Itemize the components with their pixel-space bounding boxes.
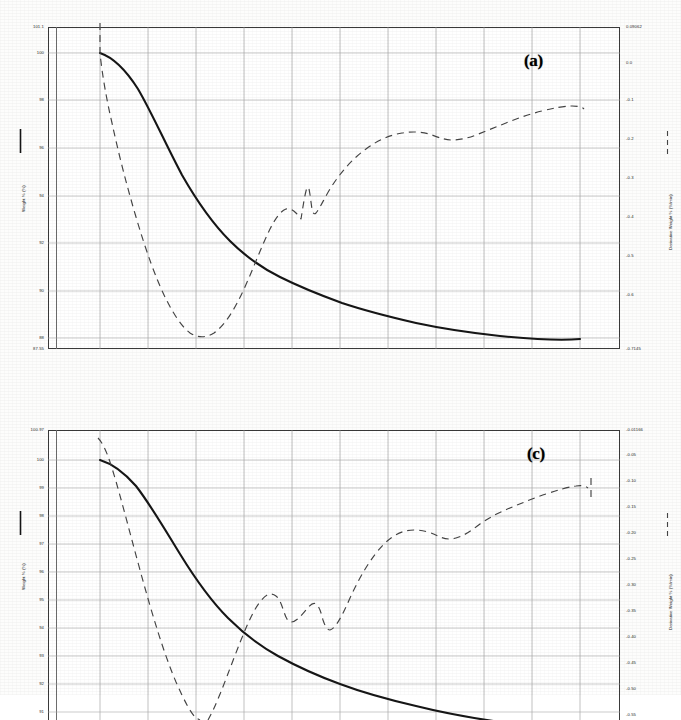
axis-tick-label: 0.0 — [626, 61, 632, 65]
axis-tick-label: -0.35 — [626, 609, 636, 613]
axis-tick-label: -0.45 — [626, 661, 636, 665]
plot-a-curves — [48, 27, 620, 349]
axis-tick-label: -0.4 — [626, 215, 634, 219]
axis-tick-label: -0.1 — [626, 98, 634, 102]
chart-panel-c: 100.97 100 99 98 97 96 95 94 93 92 91 -0… — [0, 400, 681, 695]
derivative-curve-c — [98, 438, 591, 720]
left-axis-legend-solid — [17, 128, 24, 154]
axis-tick-label: -0.55 — [626, 713, 636, 717]
axis-tick-label: 100.97 — [2, 428, 44, 432]
axis-tick-label: 100 — [6, 458, 44, 462]
axis-tick-label: -0.3 — [626, 176, 634, 180]
right-axis-legend-dashed — [664, 512, 671, 538]
axis-tick-label: 97 — [6, 542, 44, 546]
axis-tick-label: -0.6 — [626, 293, 634, 297]
axis-tick-label: 92 — [6, 682, 44, 686]
axis-tick-label: 93 — [6, 654, 44, 658]
axis-tick-label: -0.5 — [626, 254, 634, 258]
right-axis-title: Derivative Weight % (%/min) — [669, 194, 673, 250]
right-axis-legend-dashed — [664, 130, 671, 156]
chart-panel-a: 101.1 100 98 96 94 92 90 88 87.55 0.0906… — [0, 0, 681, 365]
axis-tick-label: 98 — [6, 514, 44, 518]
axis-tick-label: 98 — [6, 98, 44, 102]
left-axis-title: Weight % (%) — [22, 563, 26, 590]
axis-tick-label: -0.25 — [626, 557, 636, 561]
weight-curve-c — [100, 460, 500, 720]
axis-tick-label: 101.1 — [6, 25, 44, 29]
axis-tick-label: 100 — [6, 51, 44, 55]
axis-tick-label: 96 — [6, 146, 44, 150]
axis-tick-label: -0.30 — [626, 583, 636, 587]
axis-tick-label: -0.50 — [626, 687, 636, 691]
panel-tag-c: (c) — [527, 444, 545, 464]
left-axis-title: Weight % (%) — [22, 185, 26, 212]
axis-tick-label: 99 — [6, 486, 44, 490]
axis-tick-label: -0.7145 — [626, 347, 641, 351]
plot-a-wrapper — [48, 27, 620, 349]
axis-tick-label: -0.05 — [626, 453, 636, 457]
axis-tick-label: -0.15 — [626, 505, 636, 509]
plot-c-wrapper — [48, 430, 620, 720]
axis-tick-label: -0.01166 — [626, 428, 643, 432]
axis-tick-label: 88 — [6, 336, 44, 340]
axis-tick-label: 91 — [6, 710, 44, 714]
axis-tick-label: 94 — [6, 626, 44, 630]
weight-curve-a — [100, 53, 580, 340]
axis-tick-label: 0.09062 — [626, 25, 642, 29]
axis-tick-label: -0.40 — [626, 635, 636, 639]
right-axis-title: Derivative Weight % (%/min) — [669, 574, 673, 630]
axis-tick-label: 92 — [6, 241, 44, 245]
left-axis-legend-solid — [17, 510, 24, 536]
plot-c-curves — [48, 430, 620, 720]
axis-tick-label: 90 — [6, 289, 44, 293]
axis-tick-label: 87.55 — [2, 347, 44, 351]
panel-tag-a: (a) — [524, 51, 543, 71]
derivative-curve-a — [100, 23, 584, 337]
axis-tick-label: -0.10 — [626, 479, 636, 483]
axis-tick-label: -0.2 — [626, 137, 634, 141]
axis-tick-label: 95 — [6, 598, 44, 602]
axis-tick-label: -0.20 — [626, 531, 636, 535]
